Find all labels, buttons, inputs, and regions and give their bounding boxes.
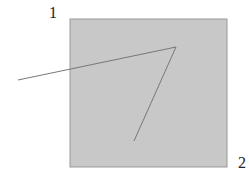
corner-label-2: 2 xyxy=(238,154,246,172)
diagram-canvas xyxy=(0,0,249,181)
gray-square xyxy=(70,19,227,167)
corner-label-1: 1 xyxy=(49,4,57,22)
